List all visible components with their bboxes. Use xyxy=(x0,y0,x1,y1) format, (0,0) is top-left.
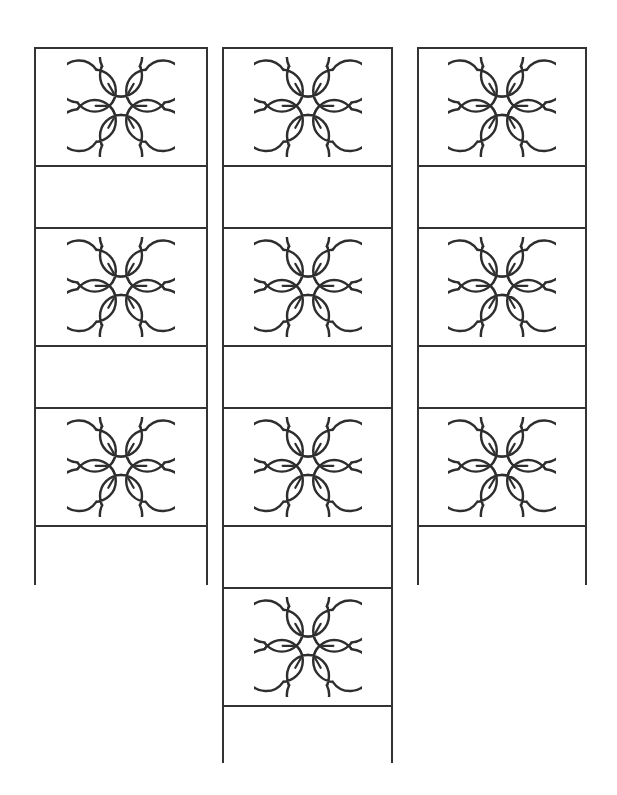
blank-cell[interactable] xyxy=(419,347,585,409)
flower-petal-arc xyxy=(287,417,329,426)
flower-icon xyxy=(448,57,556,157)
flower-petal-arc xyxy=(481,505,523,517)
flower-cell[interactable] xyxy=(224,409,391,527)
flower-cell[interactable] xyxy=(36,49,206,167)
blank-cell[interactable] xyxy=(224,347,391,409)
flower-petal-arc xyxy=(287,597,329,606)
blank-cell[interactable] xyxy=(224,527,391,589)
flower-cell[interactable] xyxy=(419,409,585,527)
flower-petal-arc xyxy=(287,325,329,337)
flower-petal-arc xyxy=(100,145,142,157)
blank-cell[interactable] xyxy=(419,167,585,229)
right-strip[interactable] xyxy=(417,47,587,585)
flower-petal-arc xyxy=(100,237,142,246)
blank-cell[interactable] xyxy=(419,527,585,589)
blank-cell[interactable] xyxy=(224,707,391,769)
blank-cell[interactable] xyxy=(36,167,206,229)
flower-petal-arc xyxy=(287,57,329,66)
flower-petal-arc xyxy=(100,505,142,517)
flower-cell[interactable] xyxy=(224,229,391,347)
flower-icon xyxy=(254,597,362,697)
flower-cell[interactable] xyxy=(419,229,585,347)
flower-icon xyxy=(448,237,556,337)
flower-cell[interactable] xyxy=(224,589,391,707)
flower-cell[interactable] xyxy=(224,49,391,167)
flower-cell[interactable] xyxy=(36,229,206,347)
flower-cell[interactable] xyxy=(419,49,585,167)
flower-petal-arc xyxy=(100,417,142,426)
flower-petal-arc xyxy=(481,417,523,426)
blank-cell[interactable] xyxy=(224,167,391,229)
flower-icon xyxy=(67,417,175,517)
flower-petal-arc xyxy=(100,325,142,337)
flower-petal-arc xyxy=(481,57,523,66)
flower-icon xyxy=(67,237,175,337)
worksheet-page xyxy=(0,0,617,795)
flower-icon xyxy=(67,57,175,157)
flower-petal-arc xyxy=(287,505,329,517)
flower-petal-arc xyxy=(481,145,523,157)
middle-strip[interactable] xyxy=(222,47,393,763)
flower-icon xyxy=(254,237,362,337)
flower-icon xyxy=(448,417,556,517)
flower-petal-arc xyxy=(287,685,329,697)
flower-petal-arc xyxy=(287,145,329,157)
blank-cell[interactable] xyxy=(36,527,206,589)
blank-cell[interactable] xyxy=(36,347,206,409)
flower-cell[interactable] xyxy=(36,409,206,527)
flower-petal-arc xyxy=(287,237,329,246)
flower-petal-arc xyxy=(481,325,523,337)
flower-icon xyxy=(254,57,362,157)
flower-icon xyxy=(254,417,362,517)
left-strip[interactable] xyxy=(34,47,208,585)
flower-petal-arc xyxy=(100,57,142,66)
flower-petal-arc xyxy=(481,237,523,246)
